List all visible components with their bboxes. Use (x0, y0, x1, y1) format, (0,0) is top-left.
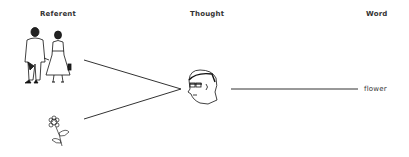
edge-flower-to-thought (84, 89, 181, 119)
word-flower-label: flower (364, 85, 387, 93)
edge-couple-to-thought (84, 60, 181, 89)
flower-icon (49, 116, 69, 146)
semantic-triangle-diagram (0, 0, 409, 157)
couple-walking-icon (25, 28, 71, 84)
thinking-head-icon (188, 70, 217, 104)
